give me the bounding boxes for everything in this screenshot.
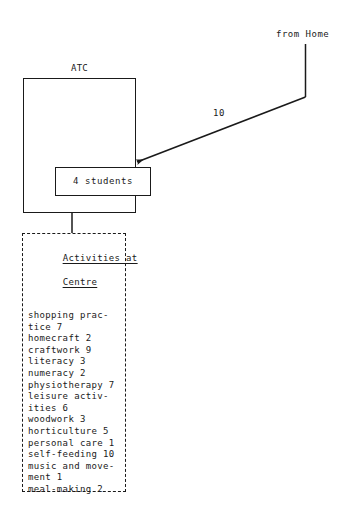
activities-note-heading-line1: Activities at	[63, 253, 138, 263]
activities-list-item: numeracy 2	[28, 368, 128, 380]
activities-list-item: shopping prac-	[28, 310, 128, 322]
atc-node-box[interactable]: 4 students	[23, 78, 136, 213]
students-count-box[interactable]: 4 students	[55, 167, 151, 196]
activities-list-item: literacy 3	[28, 356, 128, 368]
activities-list-item: leisure activ-	[28, 391, 128, 403]
activities-list-item: meal-making 2	[28, 484, 128, 496]
activities-list-item: ment 1	[28, 472, 128, 484]
activities-list-item: homecraft 2	[28, 333, 128, 345]
activities-list-item: horticulture 5	[28, 426, 128, 438]
activities-list-item: craftwork 9	[28, 345, 128, 357]
activities-note-heading: Activities at Centre	[28, 240, 128, 300]
activities-note-content: Activities at Centre shopping prac-tice …	[28, 240, 128, 496]
diagram-canvas: ATC 4 students Activities at Centre shop…	[0, 0, 354, 528]
activities-list-item: physiotherapy 7	[28, 380, 128, 392]
from-home-source-label: from Home	[276, 29, 329, 40]
activities-list-item: tice 7	[28, 322, 128, 334]
atc-node-label: ATC	[23, 63, 136, 74]
activities-list-item: woodwork 3	[28, 414, 128, 426]
activities-list-item: self-feeding 10	[28, 449, 128, 461]
students-count-label: 4 students	[73, 176, 133, 187]
activities-list-item: ities 6	[28, 403, 128, 415]
activities-list-item: personal care 1	[28, 438, 128, 450]
activities-list-item: music and move-	[28, 461, 128, 473]
activities-list: shopping prac-tice 7homecraft 2craftwork…	[28, 310, 128, 496]
from-home-arrow	[137, 97, 306, 162]
from-home-flow-label: 10	[213, 108, 225, 119]
activities-note-heading-line2: Centre	[63, 277, 98, 287]
